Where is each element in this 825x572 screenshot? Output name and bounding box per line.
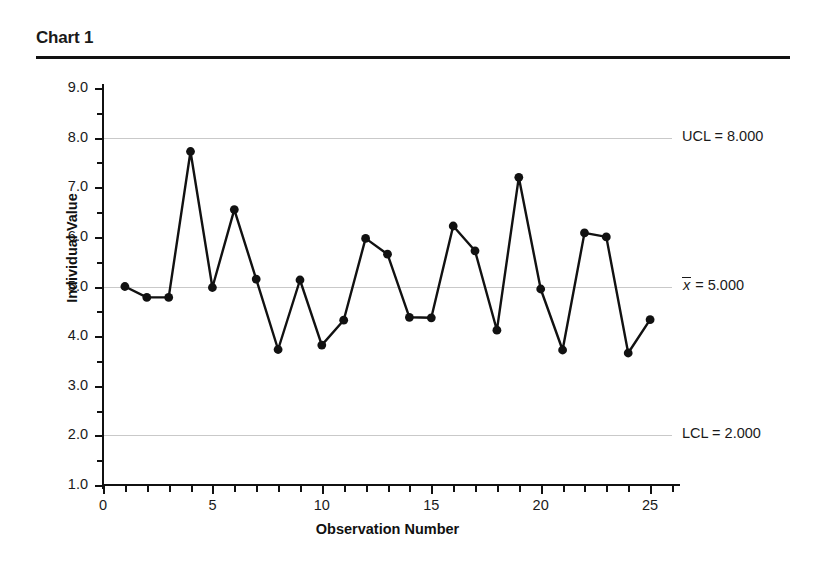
- x-tick-minor: [169, 486, 171, 492]
- x-tick-minor: [497, 486, 499, 492]
- x-tick-major: [212, 486, 214, 494]
- x-tick-minor: [300, 486, 302, 492]
- data-point: [493, 326, 502, 335]
- data-point: [514, 173, 523, 182]
- y-tick-minor: [97, 113, 103, 115]
- x-tick-minor: [584, 486, 586, 492]
- y-tick-minor: [97, 411, 103, 413]
- y-tick-major: [95, 88, 103, 90]
- x-tick-minor: [563, 486, 565, 492]
- y-tick-minor: [97, 361, 103, 363]
- x-tick-major: [103, 486, 105, 494]
- y-tick-minor: [97, 460, 103, 462]
- data-point: [252, 275, 261, 284]
- data-point: [427, 313, 436, 322]
- data-point: [624, 349, 633, 358]
- x-tick-major: [322, 486, 324, 494]
- x-tick-minor: [256, 486, 258, 492]
- x-tick-label: 0: [83, 497, 123, 513]
- x-tick-minor: [475, 486, 477, 492]
- x-tick-minor: [388, 486, 390, 492]
- x-tick-minor: [191, 486, 193, 492]
- data-point: [361, 234, 370, 243]
- data-point: [164, 293, 173, 302]
- x-tick-minor: [125, 486, 127, 492]
- data-point: [383, 250, 392, 259]
- y-tick-minor: [97, 162, 103, 164]
- y-tick-label: 9.0: [28, 79, 88, 95]
- x-tick-minor: [234, 486, 236, 492]
- y-tick-major: [95, 386, 103, 388]
- x-tick-minor: [606, 486, 608, 492]
- data-point: [274, 345, 283, 354]
- data-point: [558, 346, 567, 355]
- x-tick-major: [650, 486, 652, 494]
- y-tick-major: [95, 287, 103, 289]
- data-point: [186, 147, 195, 156]
- data-point: [296, 276, 305, 285]
- limit-label-UCL: UCL = 8.000: [682, 128, 763, 144]
- data-point: [142, 293, 151, 302]
- x-bar-symbol: x: [682, 277, 691, 293]
- y-tick-minor: [97, 262, 103, 264]
- data-point: [646, 315, 655, 324]
- page-title: Chart 1: [36, 28, 93, 48]
- data-point: [405, 313, 414, 322]
- series-markers: [121, 147, 655, 357]
- x-tick-minor: [409, 486, 411, 492]
- y-tick-minor: [97, 311, 103, 313]
- gridline-center: [103, 287, 672, 288]
- data-point: [471, 246, 480, 255]
- x-tick-label: 10: [302, 497, 342, 513]
- y-tick-major: [95, 336, 103, 338]
- x-axis-title: Observation Number: [103, 521, 672, 537]
- x-tick-minor: [278, 486, 280, 492]
- x-tick-minor: [344, 486, 346, 492]
- series-line: [125, 152, 650, 354]
- title-divider: [36, 56, 790, 59]
- y-tick-label: 3.0: [28, 377, 88, 393]
- gridline-LCL: [103, 435, 672, 436]
- data-point: [339, 316, 348, 325]
- data-point: [536, 285, 545, 294]
- x-tick-major: [541, 486, 543, 494]
- x-axis-line: [102, 484, 680, 486]
- x-tick-minor: [672, 486, 674, 492]
- gridline-UCL: [103, 138, 672, 139]
- y-tick-major: [95, 435, 103, 437]
- y-tick-minor: [97, 212, 103, 214]
- data-point: [230, 205, 239, 214]
- limit-label-LCL: LCL = 2.000: [682, 425, 761, 441]
- x-tick-minor: [628, 486, 630, 492]
- data-point: [449, 222, 458, 231]
- limit-label-center: x = 5.000: [682, 277, 744, 293]
- y-tick-label: 1.0: [28, 476, 88, 492]
- y-tick-major: [95, 237, 103, 239]
- x-tick-major: [431, 486, 433, 494]
- x-tick-label: 20: [521, 497, 561, 513]
- data-point: [602, 233, 611, 242]
- y-tick-label: 2.0: [28, 426, 88, 442]
- data-point: [580, 229, 589, 238]
- x-tick-minor: [147, 486, 149, 492]
- y-axis-title: Individual Value: [64, 148, 80, 348]
- y-tick-major: [95, 187, 103, 189]
- chart-page: Chart 1 1.02.03.04.05.06.07.08.09.0 0510…: [0, 0, 825, 572]
- y-tick-major: [95, 138, 103, 140]
- x-tick-label: 5: [192, 497, 232, 513]
- y-tick-major: [95, 485, 103, 487]
- x-tick-label: 25: [630, 497, 670, 513]
- x-tick-minor: [519, 486, 521, 492]
- x-tick-minor: [366, 486, 368, 492]
- x-tick-minor: [453, 486, 455, 492]
- x-tick-label: 15: [411, 497, 451, 513]
- data-point: [317, 341, 326, 350]
- y-tick-label: 8.0: [28, 129, 88, 145]
